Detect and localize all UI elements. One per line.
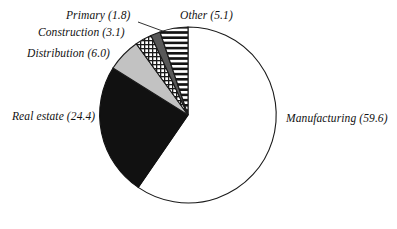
pie-label-real-estate: Real estate (24.4) bbox=[12, 110, 95, 122]
leader-line-primary bbox=[138, 22, 168, 33]
pie-chart-figure: Primary (1.8) Construction (3.1) Distrib… bbox=[0, 0, 397, 229]
pie-label-other: Other (5.1) bbox=[180, 9, 233, 21]
pie-label-primary: Primary (1.8) bbox=[66, 9, 131, 21]
pie-label-manufacturing: Manufacturing (59.6) bbox=[286, 112, 388, 124]
pie-label-distribution: Distribution (6.0) bbox=[27, 47, 110, 59]
pie-label-construction: Construction (3.1) bbox=[38, 26, 125, 38]
